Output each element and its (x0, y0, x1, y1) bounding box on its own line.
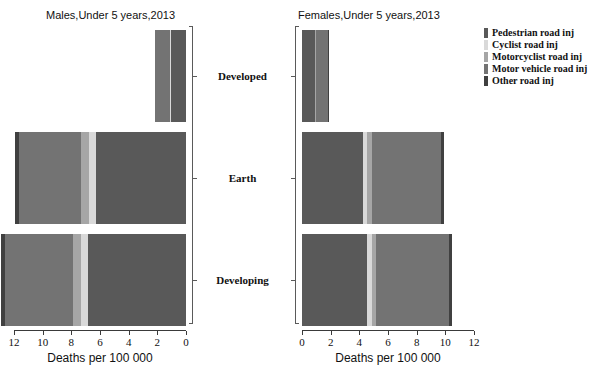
bar-segment-pedestrian-road-inj[interactable] (302, 30, 315, 122)
category-tick-earth (291, 178, 296, 179)
value-tick-label: 2 (145, 336, 169, 348)
axis-title-males: Deaths per 100 000 (14, 351, 186, 365)
value-tick-label: 10 (433, 336, 457, 348)
value-tick (445, 331, 446, 335)
bar-females-earth[interactable] (302, 132, 444, 224)
category-label-developing: Developing (195, 274, 290, 286)
category-axis-cap (295, 323, 299, 324)
panel-females: Females,Under 5 years,2013 024681012Deat… (290, 0, 495, 370)
bar-segment-other-road-inj[interactable] (449, 234, 452, 326)
legend-label: Motor vehicle road inj (492, 64, 587, 74)
value-tick (417, 331, 418, 335)
legend-swatch-icon (484, 28, 488, 38)
value-tick-label: 2 (319, 336, 343, 348)
bar-segment-other-road-inj[interactable] (328, 30, 329, 122)
axis-title-females: Deaths per 100 000 (302, 351, 474, 365)
bar-females-developing[interactable] (302, 234, 452, 326)
bar-segment-pedestrian-road-inj[interactable] (302, 234, 367, 326)
value-tick-label: 8 (405, 336, 429, 348)
category-axis-cap (189, 26, 193, 27)
bar-segment-pedestrian-road-inj[interactable] (302, 132, 363, 224)
category-axis-cap (189, 323, 193, 324)
legend-item[interactable]: Other road inj (484, 75, 602, 86)
value-tick-label: 4 (117, 336, 141, 348)
legend-swatch-icon (484, 40, 488, 50)
bar-segment-motor-vehicle-road-inj[interactable] (19, 132, 81, 224)
value-tick-label: 0 (174, 336, 198, 348)
legend-item[interactable]: Cyclist road inj (484, 39, 602, 50)
category-axis-cap (295, 26, 299, 27)
bar-males-developed[interactable] (155, 30, 186, 122)
bar-segment-pedestrian-road-inj[interactable] (96, 132, 186, 224)
value-tick-label: 10 (31, 336, 55, 348)
legend-item[interactable]: Motorcyclist road inj (484, 51, 602, 62)
value-tick-label: 12 (2, 336, 26, 348)
value-tick-label: 4 (347, 336, 371, 348)
bar-segment-motor-vehicle-road-inj[interactable] (376, 234, 449, 326)
value-tick (100, 331, 101, 335)
bar-segment-motor-vehicle-road-inj[interactable] (372, 132, 442, 224)
legend-label: Pedestrian road inj (492, 28, 574, 38)
value-tick (302, 331, 303, 335)
bar-segment-motor-vehicle-road-inj[interactable] (316, 30, 328, 122)
legend-label: Other road inj (492, 76, 554, 86)
legend-label: Motorcyclist road inj (492, 52, 582, 62)
bar-segment-motorcyclist-road-inj[interactable] (73, 234, 82, 326)
bar-males-earth[interactable] (15, 132, 186, 224)
bar-males-developing[interactable] (1, 234, 186, 326)
value-tick (71, 331, 72, 335)
panel-title-males: Males,Under 5 years,2013 (46, 9, 175, 21)
legend-item[interactable]: Pedestrian road inj (484, 27, 602, 38)
bar-segment-pedestrian-road-inj[interactable] (88, 234, 186, 326)
category-label-earth: Earth (195, 172, 290, 184)
value-tick (14, 331, 15, 335)
legend-swatch-icon (484, 76, 488, 86)
value-tick-label: 6 (376, 336, 400, 348)
category-label-developed: Developed (195, 70, 290, 82)
panel-title-females: Females,Under 5 years,2013 (298, 9, 440, 21)
legend-label: Cyclist road inj (492, 40, 558, 50)
bar-segment-other-road-inj[interactable] (441, 132, 444, 224)
chart-canvas: Males,Under 5 years,2013 121086420Deaths… (0, 0, 603, 370)
value-tick-label: 6 (88, 336, 112, 348)
value-tick-label: 0 (290, 336, 314, 348)
legend: Pedestrian road injCyclist road injMotor… (484, 27, 602, 87)
panel-males: Males,Under 5 years,2013 121086420Deaths… (0, 0, 290, 370)
value-tick (129, 331, 130, 335)
value-tick-label: 12 (462, 336, 486, 348)
value-tick (474, 331, 475, 335)
value-tick (43, 331, 44, 335)
plot-area-males: 121086420Deaths per 100 000 (14, 26, 186, 324)
value-tick (331, 331, 332, 335)
bar-segment-motor-vehicle-road-inj[interactable] (5, 234, 72, 326)
value-tick (388, 331, 389, 335)
value-tick-label: 8 (59, 336, 83, 348)
category-tick-developing (291, 280, 296, 281)
bar-segment-motor-vehicle-road-inj[interactable] (155, 30, 169, 122)
bar-segment-pedestrian-road-inj[interactable] (171, 30, 186, 122)
legend-swatch-icon (484, 52, 488, 62)
value-tick (157, 331, 158, 335)
bar-segment-motorcyclist-road-inj[interactable] (81, 132, 89, 224)
legend-swatch-icon (484, 64, 488, 74)
value-tick (186, 331, 187, 335)
value-tick (359, 331, 360, 335)
plot-area-females: 024681012Deaths per 100 000 (302, 26, 474, 324)
legend-item[interactable]: Motor vehicle road inj (484, 63, 602, 74)
category-tick-developed (291, 76, 296, 77)
bar-females-developed[interactable] (302, 30, 328, 122)
